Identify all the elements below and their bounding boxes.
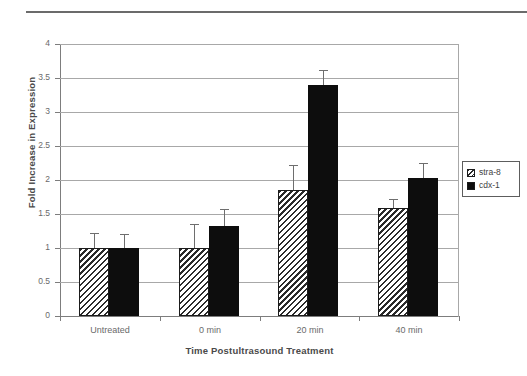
y-tick-label: 0.5	[8, 277, 50, 286]
y-tick-mark	[55, 282, 60, 283]
bar-stra-8-40-min	[378, 208, 408, 316]
page-top-rule	[26, 11, 527, 13]
x-tick-label-0-min: 0 min	[160, 325, 260, 336]
x-tick-mark	[260, 316, 261, 321]
y-tick-mark	[55, 214, 60, 215]
bar-cdx-1-Untreated	[109, 248, 139, 316]
legend-swatch-solid-icon	[467, 182, 475, 190]
x-tick-mark	[60, 316, 61, 321]
error-bar-cap	[220, 209, 229, 210]
bar-stra-8-Untreated	[79, 248, 109, 316]
y-tick-mark	[55, 44, 60, 45]
bar-cdx-1-20-min	[308, 85, 338, 316]
x-tick-label-20-min: 20 min	[260, 325, 360, 336]
legend-label-cdx-1: cdx-1	[479, 181, 500, 190]
bar-cdx-1-40-min	[408, 178, 438, 316]
error-bar-stem	[323, 70, 324, 85]
y-tick-mark	[55, 180, 60, 181]
gridline	[60, 44, 459, 45]
error-bar-cap	[419, 163, 428, 164]
error-bar-cap	[120, 234, 129, 235]
error-bar-cap	[190, 224, 199, 225]
error-bar-cap	[319, 70, 328, 71]
gridline	[60, 78, 459, 79]
error-bar-cap	[90, 233, 99, 234]
chart-legend: stra-8 cdx-1	[462, 161, 520, 197]
bar-stra-8-20-min	[278, 190, 308, 316]
error-bar-stem	[224, 209, 225, 226]
y-tick-mark	[55, 248, 60, 249]
gridline	[60, 146, 459, 147]
error-bar-cap	[389, 199, 398, 200]
x-tick-label-40-min: 40 min	[359, 325, 459, 336]
bar-cdx-1-0-min	[209, 226, 239, 316]
error-bar-cap	[289, 165, 298, 166]
legend-item-cdx-1: cdx-1	[467, 179, 516, 192]
x-tick-mark	[359, 316, 360, 321]
gridline	[60, 180, 459, 181]
x-tick-mark	[160, 316, 161, 321]
x-axis-title: Time Postultrasound Treatment	[60, 345, 459, 356]
figure-container: 00.511.522.533.54 Untreated0 min20 min40…	[0, 0, 527, 376]
y-tick-label: 0	[8, 311, 50, 320]
error-bar-stem	[423, 163, 424, 178]
gridline	[60, 112, 459, 113]
legend-item-stra-8: stra-8	[467, 166, 516, 179]
legend-swatch-hatched-icon	[467, 169, 475, 177]
x-tick-label-Untreated: Untreated	[60, 325, 160, 336]
error-bar-stem	[194, 224, 195, 248]
error-bar-stem	[393, 199, 394, 208]
y-tick-mark	[55, 78, 60, 79]
x-tick-mark	[459, 316, 460, 321]
y-tick-mark	[55, 146, 60, 147]
error-bar-stem	[94, 233, 95, 248]
y-tick-mark	[55, 112, 60, 113]
error-bar-stem	[124, 234, 125, 248]
bar-stra-8-0-min	[179, 248, 209, 316]
y-tick-label: 1	[8, 243, 50, 252]
legend-label-stra-8: stra-8	[479, 168, 501, 177]
error-bar-stem	[293, 165, 294, 190]
y-axis-title: Fold Increase in Expression	[26, 43, 37, 243]
